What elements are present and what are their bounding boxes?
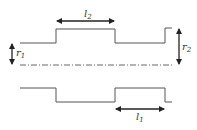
lower-profile-line [20, 88, 172, 102]
r2-label: r2 [182, 41, 192, 54]
l1-label: l1 [136, 111, 144, 124]
r1-label: r1 [16, 47, 25, 60]
l2-label: l2 [84, 8, 92, 21]
diagram-canvas: l2 r1 r2 l1 [0, 0, 197, 130]
upper-profile-line [20, 28, 172, 43]
stepped-profile-diagram: l2 r1 r2 l1 [0, 0, 197, 130]
